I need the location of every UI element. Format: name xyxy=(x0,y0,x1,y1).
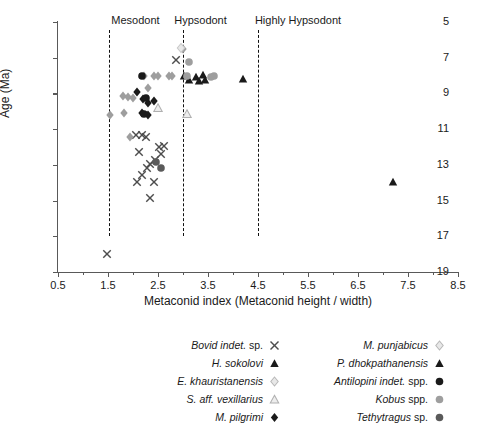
legend-item[interactable]: M. punjabicus xyxy=(285,336,445,354)
x-tick xyxy=(408,272,409,277)
scatter-plot-figure: Age (Ma) Metaconid index (Metaconid heig… xyxy=(0,0,494,433)
x-tick-label: 7.5 xyxy=(400,280,415,291)
data-point xyxy=(104,109,115,120)
y-tick xyxy=(53,201,58,202)
highly-hypsodont-zone-label: Highly Hypsodont xyxy=(255,14,341,26)
mesodont-lower-divider xyxy=(109,30,110,236)
data-point xyxy=(137,70,148,81)
data-point xyxy=(153,71,164,82)
x-axis-title: Metaconid index (Metaconid height / widt… xyxy=(58,294,458,308)
x-tick xyxy=(58,272,59,277)
legend: Bovid indet. sp.H. sokoloviE. khauristan… xyxy=(120,336,460,430)
data-point xyxy=(140,92,151,103)
legend-item-label: E. khauristanensis xyxy=(177,375,263,387)
x-tick-label: 3.5 xyxy=(200,280,215,291)
data-point xyxy=(167,70,178,81)
legend-marker-diamond-icon xyxy=(269,411,280,424)
legend-item[interactable]: H. sokolovi xyxy=(120,354,280,372)
x-tick-label: 4.5 xyxy=(250,280,265,291)
y-tick xyxy=(53,129,58,130)
y-tick-label: 13 xyxy=(437,159,449,170)
legend-column-right: M. punjabicusP. dhokpathanensisAntilopin… xyxy=(285,336,445,426)
data-point xyxy=(171,55,182,66)
legend-item-label: P. dhokpathanensis xyxy=(337,357,428,369)
legend-item[interactable]: P. dhokpathanensis xyxy=(285,354,445,372)
y-tick-label: 17 xyxy=(437,230,449,241)
highly-hypsodont-lower-divider xyxy=(258,30,259,236)
y-tick xyxy=(53,236,58,237)
x-tick-minor xyxy=(383,272,384,275)
data-point xyxy=(176,42,187,53)
legend-marker-circle-icon xyxy=(434,393,445,406)
y-tick xyxy=(53,165,58,166)
legend-item[interactable]: Bovid indet. sp. xyxy=(120,336,280,354)
x-tick-minor xyxy=(333,272,334,275)
legend-item-label: Antilopini indet. spp. xyxy=(334,375,428,387)
x-tick-label: 5.5 xyxy=(300,280,315,291)
legend-item[interactable]: Antilopini indet. spp. xyxy=(285,372,445,390)
x-tick xyxy=(208,272,209,277)
x-tick xyxy=(358,272,359,277)
mesodont-zone-label: Mesodont xyxy=(111,14,159,26)
y-tick-label: 11 xyxy=(438,123,449,134)
y-tick xyxy=(53,58,58,59)
data-point xyxy=(209,71,220,82)
plot-area: 5791113151719 0.51.52.53.54.55.56.57.58.… xyxy=(58,22,458,272)
y-tick-label: 5 xyxy=(443,16,449,27)
legend-item-label: H. sokolovi xyxy=(212,357,263,369)
y-tick-label: 19 xyxy=(437,266,449,277)
data-point xyxy=(156,163,167,174)
x-tick xyxy=(258,272,259,277)
x-tick-label: 1.5 xyxy=(100,280,115,291)
y-tick-label: 7 xyxy=(443,52,449,63)
x-tick xyxy=(458,272,459,277)
legend-item[interactable]: S. aff. vexillarius xyxy=(120,390,280,408)
y-axis-title: Age (Ma) xyxy=(0,69,12,118)
x-tick xyxy=(158,272,159,277)
legend-marker-circle-icon xyxy=(434,411,445,424)
legend-item-label: S. aff. vexillarius xyxy=(187,393,263,405)
x-tick-label: 0.5 xyxy=(50,280,65,291)
x-tick-label: 8.5 xyxy=(450,280,465,291)
legend-item[interactable]: M. pilgrimi xyxy=(120,408,280,426)
x-tick-label: 6.5 xyxy=(350,280,365,291)
x-tick-minor xyxy=(233,272,234,275)
hypsodont-zone-label: Hypsodont xyxy=(174,14,227,26)
y-tick xyxy=(53,22,58,23)
x-tick-label: 2.5 xyxy=(150,280,165,291)
data-point xyxy=(181,71,192,82)
x-tick xyxy=(108,272,109,277)
legend-marker-triangle-up-icon xyxy=(434,357,445,370)
data-point xyxy=(388,176,399,187)
data-point xyxy=(140,132,151,143)
data-point xyxy=(184,57,195,68)
data-point xyxy=(238,74,249,85)
x-tick-minor xyxy=(433,272,434,275)
data-point xyxy=(194,75,205,86)
legend-marker-circle-icon xyxy=(434,375,445,388)
data-point xyxy=(124,132,135,143)
legend-marker-x-icon xyxy=(269,339,280,352)
x-tick-minor xyxy=(133,272,134,275)
legend-item-label: Bovid indet. sp. xyxy=(191,339,263,351)
x-tick-minor xyxy=(283,272,284,275)
data-point xyxy=(134,147,145,158)
x-tick xyxy=(308,272,309,277)
x-tick-minor xyxy=(83,272,84,275)
legend-marker-triangle-up-open-icon xyxy=(269,393,280,406)
data-point xyxy=(139,108,150,119)
data-point xyxy=(149,177,160,188)
legend-item-label: Tethytragus sp. xyxy=(357,411,428,423)
data-point xyxy=(182,108,193,119)
legend-item-label: M. punjabicus xyxy=(363,339,428,351)
legend-marker-triangle-up-icon xyxy=(269,357,280,370)
legend-item[interactable]: Kobus spp. xyxy=(285,390,445,408)
data-point xyxy=(101,249,112,260)
y-tick-label: 9 xyxy=(443,87,449,98)
legend-item[interactable]: Tethytragus sp. xyxy=(285,408,445,426)
legend-item-label: Kobus spp. xyxy=(375,393,428,405)
legend-item-label: M. pilgrimi xyxy=(215,411,263,423)
legend-marker-diamond-open-icon xyxy=(434,339,445,352)
y-tick xyxy=(53,93,58,94)
legend-item[interactable]: E. khauristanensis xyxy=(120,372,280,390)
